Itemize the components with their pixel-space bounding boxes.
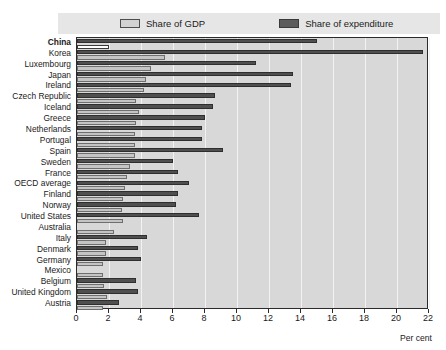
category-label-denmark: Denmark: [37, 245, 71, 254]
bar-expenditure: [77, 39, 317, 43]
bar-row: [77, 114, 427, 125]
legend-item-share-of-expenditure: Share of expenditure: [279, 18, 393, 29]
category-label-china: China: [48, 38, 71, 47]
category-label-netherlands: Netherlands: [26, 125, 71, 134]
x-axis-tick-label: 0: [73, 313, 78, 323]
category-label-korea: Korea: [49, 49, 71, 58]
bar-expenditure: [77, 83, 291, 87]
category-label-germany: Germany: [37, 256, 71, 265]
bar-expenditure: [77, 50, 423, 54]
bar-expenditure: [77, 191, 178, 195]
category-label-czech-republic: Czech Republic: [12, 92, 71, 101]
legend-label-gdp: Share of GDP: [146, 18, 205, 29]
x-axis-tick-label: 18: [359, 313, 369, 323]
bar-row: [77, 71, 427, 82]
x-axis-tick-label: 2: [105, 313, 110, 323]
category-label-belgium: Belgium: [41, 277, 71, 286]
category-label-australia: Australia: [38, 223, 71, 232]
legend-swatch-expenditure-icon: [279, 19, 299, 28]
bar-row: [77, 38, 427, 49]
bar-chart: Share of GDP Share of expenditure ChinaK…: [0, 0, 446, 350]
bar-row: [77, 103, 427, 114]
bar-expenditure: [77, 257, 141, 261]
category-label-iceland: Iceland: [44, 103, 71, 112]
bar-expenditure: [77, 148, 223, 152]
chart-legend: Share of GDP Share of expenditure: [58, 13, 440, 34]
bar-row: [77, 125, 427, 136]
bar-expenditure: [77, 104, 213, 108]
bar-expenditure: [77, 126, 202, 130]
category-label-norway: Norway: [43, 201, 71, 210]
bar-row: [77, 266, 427, 277]
x-axis-title: Per cent: [400, 333, 432, 343]
category-label-united-states: United States: [21, 212, 71, 221]
category-label-luxembourg: Luxembourg: [24, 60, 71, 69]
bar-expenditure: [77, 246, 138, 250]
category-label-finland: Finland: [44, 190, 71, 199]
bar-expenditure: [77, 72, 293, 76]
category-label-spain: Spain: [50, 147, 71, 156]
x-axis-tick-label: 12: [263, 313, 273, 323]
bar-row: [77, 277, 427, 288]
category-label-portugal: Portugal: [40, 136, 71, 145]
bar-row: [77, 223, 427, 234]
category-label-japan: Japan: [48, 71, 71, 80]
bar-expenditure: [77, 235, 147, 239]
bar-expenditure: [77, 159, 173, 163]
bar-expenditure: [77, 213, 199, 217]
category-label-italy: Italy: [56, 234, 71, 243]
bar-expenditure: [77, 115, 205, 119]
x-axis-tick-label: 6: [169, 313, 174, 323]
bar-row: [77, 92, 427, 103]
bar-row: [77, 201, 427, 212]
bar-row: [77, 190, 427, 201]
bar-expenditure: [77, 137, 202, 141]
bar-row: [77, 212, 427, 223]
category-label-austria: Austria: [45, 299, 71, 308]
plot-area: [76, 37, 428, 309]
category-label-sweden: Sweden: [41, 158, 71, 167]
category-label-ireland: Ireland: [45, 81, 71, 90]
x-axis-tick-label: 20: [391, 313, 401, 323]
bar-expenditure: [77, 61, 256, 65]
x-axis-tick-label: 16: [327, 313, 337, 323]
x-axis: 0246810121416182022: [76, 309, 428, 317]
bar-row: [77, 256, 427, 267]
x-axis-tick-label: 10: [231, 313, 241, 323]
x-axis-tick-label: 8: [201, 313, 206, 323]
bar-expenditure: [77, 170, 178, 174]
bar-row: [77, 147, 427, 158]
x-axis-tick-label: 22: [423, 313, 433, 323]
x-axis-tick-label: 4: [137, 313, 142, 323]
legend-swatch-gdp-icon: [120, 19, 140, 28]
category-axis-labels: ChinaKoreaLuxembourgJapanIrelandCzech Re…: [0, 37, 74, 309]
legend-item-share-of-gdp: Share of GDP: [120, 18, 205, 29]
bar-rows: [77, 38, 427, 308]
bar-expenditure: [77, 289, 138, 293]
bar-expenditure: [77, 93, 215, 97]
bar-row: [77, 179, 427, 190]
bar-row: [77, 82, 427, 93]
category-label-united-kingdom: United Kingdom: [11, 288, 71, 297]
category-label-france: France: [45, 169, 71, 178]
bar-expenditure: [77, 202, 176, 206]
x-axis-tick-label: 14: [295, 313, 305, 323]
bar-row: [77, 288, 427, 299]
bar-expenditure: [77, 300, 119, 304]
gridline: [429, 38, 430, 308]
bar-row: [77, 158, 427, 169]
bar-row: [77, 49, 427, 60]
bar-expenditure: [77, 181, 189, 185]
bar-row: [77, 234, 427, 245]
legend-label-expenditure: Share of expenditure: [305, 18, 393, 29]
category-label-mexico: Mexico: [44, 266, 71, 275]
bar-row: [77, 60, 427, 71]
category-label-greece: Greece: [44, 114, 71, 123]
bar-row: [77, 169, 427, 180]
bar-row: [77, 136, 427, 147]
bar-row: [77, 245, 427, 256]
bar-expenditure: [77, 278, 136, 282]
category-label-oecd-average: OECD average: [14, 179, 71, 188]
